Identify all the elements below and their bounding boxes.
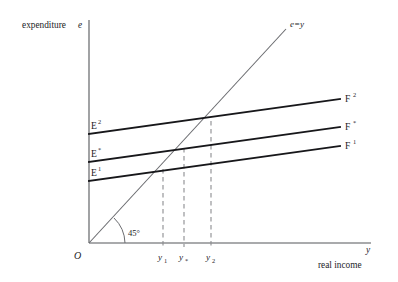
expenditure-schedule-high bbox=[89, 99, 340, 134]
angle-label: 45° bbox=[128, 228, 141, 238]
x-axis-label: real income bbox=[318, 260, 362, 270]
left-label-equilibrium-base: E bbox=[91, 148, 97, 159]
angle-arc bbox=[114, 218, 125, 243]
right-label-equilibrium: F * bbox=[345, 119, 356, 132]
right-label-low-sup: 1 bbox=[353, 138, 356, 145]
x-tick-ystar-sub: * bbox=[185, 257, 188, 264]
expenditure-schedule-low bbox=[89, 146, 340, 181]
left-label-low-base: E bbox=[91, 167, 97, 178]
x-tick-ystar: y * bbox=[178, 252, 188, 264]
right-label-low-base: F bbox=[345, 140, 350, 151]
left-label-equilibrium-sup: * bbox=[98, 146, 101, 153]
x-tick-y1-sub: 1 bbox=[164, 257, 167, 264]
left-label-low-sup: 1 bbox=[98, 165, 101, 172]
y-axis-label: expenditure bbox=[22, 20, 66, 30]
left-label-high: E 2 bbox=[91, 118, 101, 131]
x-tick-y2-sub: 2 bbox=[212, 257, 215, 264]
origin-label: O bbox=[74, 250, 81, 261]
expenditure-schedule-equilibrium bbox=[89, 127, 340, 162]
right-label-high-base: F bbox=[345, 93, 350, 104]
right-label-low: F 1 bbox=[345, 138, 356, 151]
right-label-high-sup: 2 bbox=[353, 91, 356, 98]
left-label-high-base: E bbox=[91, 120, 97, 131]
right-label-high: F 2 bbox=[345, 91, 356, 104]
x-tick-y1-base: y bbox=[157, 252, 163, 262]
identity-line-45deg bbox=[89, 29, 286, 243]
x-axis-variable: y bbox=[365, 245, 371, 255]
x-tick-y2: y 2 bbox=[205, 252, 215, 264]
right-label-equilibrium-sup: * bbox=[353, 119, 356, 126]
left-label-low: E 1 bbox=[91, 165, 101, 178]
x-tick-y2-base: y bbox=[205, 252, 211, 262]
x-tick-y1: y 1 bbox=[157, 252, 167, 264]
x-tick-ystar-base: y bbox=[178, 252, 184, 262]
left-label-high-sup: 2 bbox=[98, 118, 101, 125]
right-label-equilibrium-base: F bbox=[345, 121, 350, 132]
identity-line-label: e=y bbox=[290, 19, 304, 29]
keynesian-cross-figure: expenditure e y real income O 45° e=y E … bbox=[0, 0, 398, 282]
y-axis-variable: e bbox=[78, 20, 82, 30]
left-label-equilibrium: E * bbox=[91, 146, 101, 159]
